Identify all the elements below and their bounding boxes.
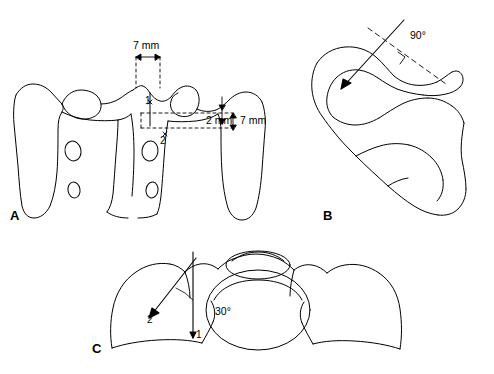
panel-letter-a: A (10, 209, 19, 222)
label-7mm-height: 7 mm (240, 115, 266, 126)
panel-b-trajectory-arrow (341, 20, 446, 89)
panel-letter-c: C (92, 342, 101, 355)
panel-b-drawing (312, 47, 466, 215)
label-trajectory-2: 2 (147, 315, 153, 325)
panel-c-drawing (111, 251, 402, 350)
panel-a-7mm-horizontal-arrow (136, 54, 160, 88)
label-trajectory-1: 1 (196, 330, 202, 340)
label-30-degrees: 30° (215, 306, 231, 317)
figure-svg (0, 0, 494, 374)
label-point-2: 2 (160, 136, 166, 146)
panel-letter-b: B (323, 209, 332, 222)
label-90-degrees: 90° (410, 30, 426, 41)
panel-a-drawing (14, 84, 266, 220)
label-point-1: 1 (145, 96, 151, 106)
label-2mm-offset: 2 mm (206, 115, 232, 126)
anatomical-figure: A B C 7 mm 2 mm 7 mm 1 2 90° 30° 2 1 (0, 0, 494, 374)
label-7mm-width: 7 mm (133, 40, 159, 51)
